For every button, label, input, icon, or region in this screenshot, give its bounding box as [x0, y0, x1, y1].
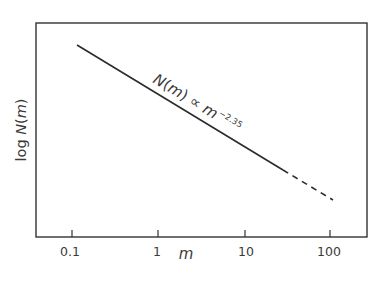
chart: 0.1 1 10 100 m log N(m) N(m) ∝ m−2.35: [0, 0, 376, 283]
power-law-annotation: N(m) ∝ m−2.35: [150, 70, 245, 137]
plot-frame: [36, 23, 367, 237]
x-axis-label: m: [179, 245, 194, 263]
ann-exponent: −2.35: [217, 108, 244, 130]
y-label-m: m: [13, 104, 29, 118]
y-label-N: N: [13, 124, 29, 135]
power-law-line-solid: [77, 45, 283, 170]
x-tick-label-0.1: 0.1: [60, 244, 80, 259]
y-label-log: log: [13, 135, 29, 162]
x-tick-label-100: 100: [317, 244, 341, 259]
y-label-close: ): [13, 98, 29, 104]
x-ticks: [72, 230, 330, 237]
x-tick-label-10: 10: [238, 244, 254, 259]
y-axis-label: log N(m): [13, 98, 29, 161]
x-tick-label-1: 1: [153, 244, 161, 259]
power-law-line-dashed: [283, 170, 333, 200]
